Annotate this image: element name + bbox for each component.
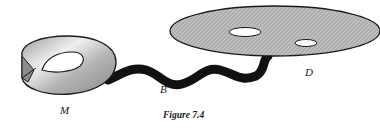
- mobius-band: [22, 36, 116, 94]
- label-mobius-m: M: [60, 104, 69, 116]
- label-disk-d: D: [305, 66, 313, 78]
- figure-caption: Figure 7.4: [163, 110, 204, 120]
- disk: [170, 6, 380, 56]
- disk-hole-2: [295, 40, 317, 47]
- connecting-band: [108, 56, 268, 85]
- disk-hole-1: [229, 28, 261, 37]
- label-band-b: B: [160, 83, 167, 95]
